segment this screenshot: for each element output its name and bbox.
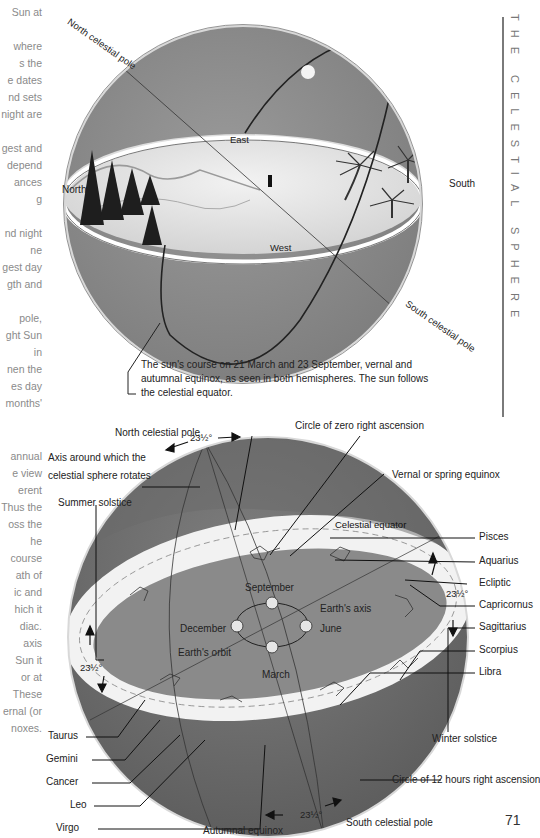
zodiac-taurus: Taurus (48, 730, 78, 741)
caption-line: the celestial equator. (141, 386, 428, 400)
label-axis-line2: celestial sphere rotates (48, 470, 151, 481)
label-circle-zero-ra: Circle of zero right ascension (295, 420, 424, 431)
label-north-celestial-pole: North celestial pole (115, 427, 200, 438)
label-september: September (245, 582, 294, 593)
label-march: March (262, 669, 290, 680)
label-december: December (180, 623, 226, 634)
label-summer-solstice: Summer solstice (58, 497, 132, 508)
caption-line: autumnal equinox, as seen in both hemisp… (141, 372, 428, 386)
zodiac-scorpius: Scorpius (479, 644, 518, 655)
label-tilt-bottom: 23½° (300, 809, 322, 820)
label-earths-orbit: Earth's orbit (178, 647, 231, 658)
zodiac-leo: Leo (70, 799, 87, 810)
zodiac-libra: Libra (479, 666, 501, 677)
zodiac-sagittarius: Sagittarius (479, 621, 526, 632)
zodiac-cancer: Cancer (46, 776, 78, 787)
label-earths-axis: Earth's axis (320, 603, 371, 614)
label-circle-12h-ra: Circle of 12 hours right ascension (392, 774, 540, 785)
zodiac-aquarius: Aquarius (479, 555, 518, 566)
label-june: June (320, 623, 342, 634)
label-west: West (270, 242, 291, 253)
label-tilt-left: 23½° (80, 662, 102, 673)
caption-line: The sun's course on 21 March and 23 Sept… (141, 358, 428, 372)
zodiac-capricornus: Capricornus (479, 599, 533, 610)
zodiac-virgo: Virgo (56, 822, 79, 833)
label-autumnal-equinox: Autumnal equinox (203, 825, 283, 836)
label-south: South (449, 178, 475, 189)
label-axis-line1: Axis around which the (48, 452, 146, 463)
zodiac-pisces: Pisces (479, 531, 508, 542)
zodiac-gemini: Gemini (46, 753, 78, 764)
figure-caption-top: The sun's course on 21 March and 23 Sept… (141, 358, 428, 400)
label-north: North (62, 184, 86, 195)
label-east: East (230, 134, 249, 145)
label-south-celestial-pole: South celestial pole (346, 817, 433, 828)
label-celestial-equator: Celestial equator (335, 519, 406, 530)
label-tilt-right: 23½° (446, 588, 468, 599)
label-tilt-top: 23½° (190, 432, 212, 443)
page-number: 71 (505, 812, 521, 828)
label-winter-solstice: Winter solstice (432, 733, 497, 744)
zodiac-ecliptic: Ecliptic (479, 577, 511, 588)
label-vernal-equinox: Vernal or spring equinox (392, 469, 500, 480)
